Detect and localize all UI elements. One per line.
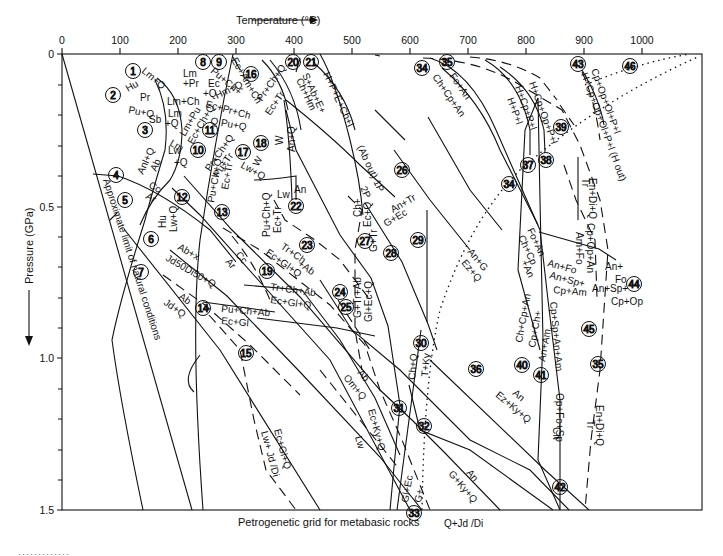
svg-text:5: 5	[122, 195, 128, 206]
svg-text:32: 32	[418, 421, 430, 432]
svg-text:46: 46	[624, 61, 636, 72]
svg-text:G+Tr+Ab: G+Tr+Ab	[352, 277, 363, 318]
svg-text:Lw+Q: Lw+Q	[168, 205, 179, 232]
svg-text:Lw: Lw	[277, 189, 291, 200]
y-tick-1.0: 1.0	[39, 352, 54, 364]
reaction-29: 29	[411, 233, 426, 248]
svg-text:40: 40	[516, 360, 528, 371]
svg-text:26: 26	[396, 165, 408, 176]
figure-caption: Petrogenetic grid for metabasic rocks	[238, 516, 420, 528]
reaction-35b: 35	[591, 357, 606, 372]
reaction-8: 8	[196, 55, 211, 70]
reaction-43: 43	[571, 57, 586, 72]
y-tick-0: 0	[48, 48, 54, 60]
svg-text:Ec+Q: Ec+Q	[362, 201, 373, 227]
reaction-45: 45	[582, 322, 597, 337]
footer-dotted-rule: ·············	[18, 551, 70, 556]
svg-text:Tr: Tr	[585, 420, 596, 430]
svg-text:35: 35	[592, 359, 604, 370]
svg-text:Lw: Lw	[353, 435, 367, 451]
x-tick-600: 600	[401, 34, 419, 46]
svg-text:38: 38	[540, 155, 552, 166]
svg-text:G+Tr: G+Tr	[368, 229, 379, 252]
svg-text:19: 19	[261, 266, 273, 277]
svg-text:Op+Fo+Sp: Op+Fo+Sp	[554, 393, 565, 442]
x-tick-0: 0	[59, 34, 65, 46]
svg-text:H+P+E+Ch+l: H+P+E+Ch+l	[321, 70, 356, 128]
svg-text:Pr: Pr	[140, 92, 151, 103]
reaction-15: 15	[239, 346, 254, 361]
reaction-42: 42	[553, 480, 568, 495]
reaction-1: 1	[126, 64, 141, 79]
reaction-41: 41	[534, 368, 549, 383]
svg-text:Hu: Hu	[124, 78, 141, 94]
svg-text:35: 35	[441, 57, 453, 68]
svg-text:41: 41	[535, 370, 547, 381]
q-jd-di-label: Q+Jd /Di	[444, 518, 483, 529]
x-tick-700: 700	[459, 34, 477, 46]
reaction-6: 6	[144, 232, 159, 247]
svg-text:Hu: Hu	[157, 215, 168, 228]
svg-text:14: 14	[197, 303, 209, 314]
y-tick-1.5: 1.5	[39, 504, 54, 516]
svg-text:25: 25	[340, 302, 352, 313]
reaction-17: 17	[236, 145, 251, 160]
svg-text:Ec+Gl: Ec+Gl	[221, 315, 249, 328]
svg-text:6: 6	[148, 234, 154, 245]
svg-text:3: 3	[142, 125, 148, 136]
svg-text:36: 36	[470, 364, 482, 375]
svg-text:12: 12	[176, 192, 188, 203]
reaction-40: 40	[515, 358, 530, 373]
svg-text:An+Sp+: An+Sp+	[592, 283, 628, 294]
svg-text:1: 1	[130, 66, 136, 77]
reaction-2: 2	[106, 88, 121, 103]
reaction-37: 37	[521, 158, 536, 173]
reaction-35a: 35	[440, 55, 455, 70]
reaction-13: 13	[215, 205, 230, 220]
svg-text:34: 34	[503, 179, 515, 190]
svg-text:8: 8	[200, 57, 206, 68]
reaction-34: 34	[415, 61, 430, 76]
svg-text:2P: 2P	[358, 184, 373, 200]
svg-text:Pu+Ch+Q: Pu+Ch+Q	[261, 192, 272, 237]
svg-text:W: W	[274, 135, 285, 145]
reaction-34b: 34	[502, 177, 517, 192]
svg-text:21: 21	[305, 57, 317, 68]
y-tick-0.5: 0.5	[39, 201, 54, 213]
reaction-12: 12	[175, 190, 190, 205]
svg-text:Gl+Ec+Q: Gl+Ec+Q	[363, 281, 374, 322]
svg-text:43: 43	[572, 59, 584, 70]
reaction-38: 38	[539, 153, 554, 168]
petrogenetic-grid: 0 100 200 300 400 500 600 700 800 900 10…	[0, 0, 723, 556]
svg-text:+Q: +Q	[174, 157, 188, 168]
svg-text:Ch+Q: Ch+Q	[406, 353, 419, 380]
svg-text:28: 28	[385, 248, 397, 259]
svg-text:Lm+Q: Lm+Q	[140, 65, 168, 91]
x-tick-400: 400	[285, 34, 303, 46]
x-tick-300: 300	[227, 34, 245, 46]
reaction-30: 30	[414, 336, 429, 351]
reaction-46: 46	[623, 59, 638, 74]
svg-text:T+Ky: T+Ky	[419, 353, 432, 377]
svg-text:20: 20	[287, 57, 299, 68]
reaction-44: 44	[627, 277, 642, 292]
svg-text:29: 29	[412, 235, 424, 246]
svg-text:Cp+Op: Cp+Op	[611, 296, 643, 307]
svg-text:34: 34	[416, 63, 428, 74]
reaction-28: 28	[384, 246, 399, 261]
svg-text:18: 18	[255, 138, 267, 149]
x-tick-200: 200	[169, 34, 187, 46]
reaction-32: 32	[417, 419, 432, 434]
svg-text:Ec+Tr: Ec+Tr	[272, 206, 283, 233]
svg-text:Cp+Am: Cp+Am	[553, 284, 587, 298]
svg-text:37: 37	[522, 160, 534, 171]
svg-text:Am+Fo: Am+Fo	[574, 232, 585, 265]
svg-text:4: 4	[113, 170, 119, 181]
svg-text:An+: An+	[605, 261, 623, 272]
svg-text:44: 44	[628, 279, 640, 290]
svg-text:Tr: Tr	[580, 178, 591, 188]
svg-text:23: 23	[301, 240, 313, 251]
svg-text:+Pr: +Pr	[183, 78, 200, 89]
reaction-18: 18	[254, 136, 269, 151]
svg-text:15: 15	[240, 348, 252, 359]
